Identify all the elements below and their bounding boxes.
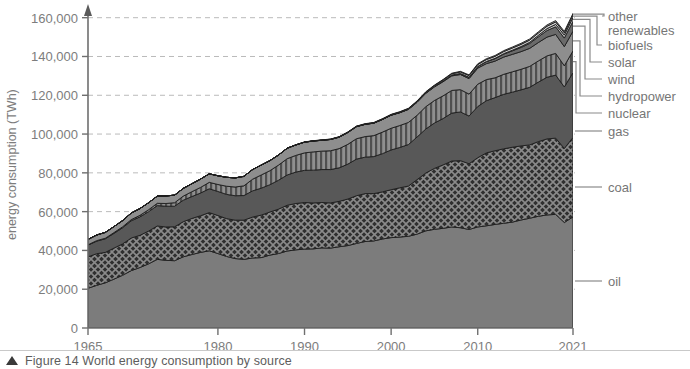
y-tick-label: 60,000 xyxy=(38,205,78,220)
y-tick-label: 140,000 xyxy=(31,49,78,64)
y-axis-ticks: 020,00040,00060,00080,000100,000120,0001… xyxy=(31,11,88,336)
legend-label-wind: wind xyxy=(607,72,635,87)
legend-label-gas: gas xyxy=(608,124,629,139)
triangle-icon xyxy=(6,356,18,365)
y-tick-label: 20,000 xyxy=(38,282,78,297)
y-tick-label: 120,000 xyxy=(31,88,78,103)
legend-label-solar: solar xyxy=(608,55,637,70)
energy-consumption-area-chart: 020,00040,00060,00080,000100,000120,0001… xyxy=(0,0,690,369)
stacked-areas xyxy=(88,13,573,328)
caption-text: Figure 14 World energy consumption by so… xyxy=(25,354,292,368)
y-tick-label: 80,000 xyxy=(38,166,78,181)
legend-label-nuclear: nuclear xyxy=(608,106,651,121)
legend-label-renewables: renewables xyxy=(608,23,675,38)
y-tick-label: 100,000 xyxy=(31,127,78,142)
y-tick-label: 40,000 xyxy=(38,243,78,258)
figure-caption: Figure 14 World energy consumption by so… xyxy=(0,350,690,369)
legend-label-biofuels: biofuels xyxy=(608,38,653,53)
legend-label-oil: oil xyxy=(608,274,621,289)
legend-label-coal: coal xyxy=(608,180,632,195)
y-axis-label: energy consumption (TWh) xyxy=(5,89,19,240)
y-tick-label: 160,000 xyxy=(31,11,78,26)
legend-label-hydropower: hydropower xyxy=(608,89,677,104)
legend-label-other: other xyxy=(608,9,638,24)
legend-leader-lines xyxy=(573,14,604,281)
legend: otherrenewablesbiofuelssolarwindhydropow… xyxy=(607,9,677,289)
y-tick-label: 0 xyxy=(71,321,78,336)
